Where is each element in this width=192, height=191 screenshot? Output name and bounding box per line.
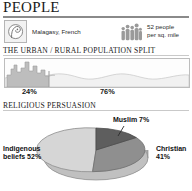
fact-density: 52 people per sq. mile — [120, 20, 179, 41]
urban-rural-percent-labels: 24% 76% — [0, 87, 192, 98]
fact-row: Malagasy, French 52 people per sq. mile — [0, 20, 192, 44]
fact-language: Malagasy, French — [4, 20, 81, 43]
pie-label-indigenous: Indigenous beliefs 52% — [3, 145, 41, 162]
pie-slice-indigenous — [36, 128, 96, 172]
infographic-people: PEOPLE Malagasy, French — [0, 0, 192, 191]
people-crowd-icon — [120, 20, 142, 41]
pie-label-christian: Christian 41% — [156, 145, 186, 162]
page-title: PEOPLE — [3, 0, 60, 16]
urban-rural-chart — [4, 58, 190, 88]
fact-density-text: 52 people per sq. mile — [147, 23, 179, 38]
title-divider — [3, 16, 189, 18]
face-profile-icon — [4, 20, 27, 43]
urban-percent: 24% — [22, 87, 37, 96]
fact-language-text: Malagasy, French — [32, 28, 81, 35]
urban-rural-divider — [3, 55, 189, 56]
urban-rural-heading: THE URBAN / RURAL POPULATION SPLIT — [3, 46, 155, 55]
religion-pie-chart: Muslim 7% Christian 41% Indigenous belie… — [0, 112, 192, 191]
rural-percent: 76% — [100, 87, 115, 96]
religion-divider — [3, 110, 189, 111]
religion-heading: RELIGIOUS PERSUASION — [3, 101, 96, 110]
pie-label-muslim: Muslim 7% — [113, 116, 149, 124]
urban-rural-silhouette — [5, 59, 189, 87]
